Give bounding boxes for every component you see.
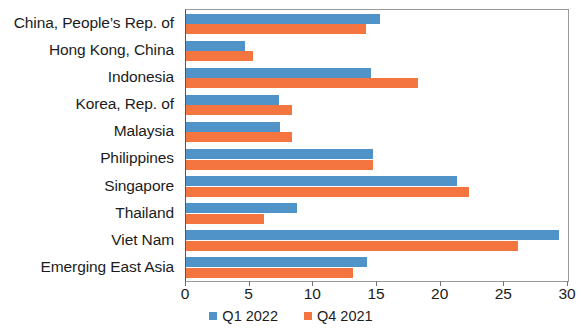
x-axis-tick-labels: 051015202530	[185, 285, 568, 307]
bar-group	[186, 146, 568, 173]
y-axis-label: China, People’s Rep. of	[0, 9, 180, 36]
legend-item[interactable]: Q4 2021	[304, 308, 373, 324]
bar-q1-2022[interactable]	[186, 68, 371, 78]
bar-q1-2022[interactable]	[186, 176, 457, 186]
bar-q4-2021[interactable]	[186, 78, 418, 88]
y-axis-label: Viet Nam	[0, 226, 180, 253]
bar-group	[186, 91, 568, 118]
bar-group	[186, 227, 568, 254]
y-axis-label: Philippines	[0, 144, 180, 171]
bar-group	[186, 10, 568, 37]
bar-q1-2022[interactable]	[186, 41, 245, 51]
x-axis-tick-label: 30	[558, 285, 575, 303]
bar-group	[186, 37, 568, 64]
legend-label: Q4 2021	[317, 308, 373, 324]
bar-q1-2022[interactable]	[186, 257, 367, 267]
legend-item[interactable]: Q1 2022	[209, 308, 278, 324]
bar-q1-2022[interactable]	[186, 149, 373, 159]
y-axis-label: Korea, Rep. of	[0, 90, 180, 117]
y-axis-label: Thailand	[0, 199, 180, 226]
x-axis-tick-label: 0	[181, 285, 190, 303]
bar-group	[186, 118, 568, 145]
bar-group	[186, 173, 568, 200]
y-axis-label: Emerging East Asia	[0, 253, 180, 280]
bar-group	[186, 200, 568, 227]
legend-label: Q1 2022	[222, 308, 278, 324]
bar-q4-2021[interactable]	[186, 132, 292, 142]
y-axis-label: Singapore	[0, 172, 180, 199]
bar-q4-2021[interactable]	[186, 214, 264, 224]
plot-inner	[186, 10, 568, 281]
y-axis-label: Hong Kong, China	[0, 36, 180, 63]
bar-q1-2022[interactable]	[186, 14, 380, 24]
bar-q4-2021[interactable]	[186, 105, 292, 115]
bar-chart: China, People’s Rep. ofHong Kong, ChinaI…	[0, 0, 582, 328]
x-axis-tick-label: 20	[431, 285, 448, 303]
bar-q1-2022[interactable]	[186, 230, 559, 240]
bar-q4-2021[interactable]	[186, 24, 366, 34]
x-axis-tick-label: 5	[244, 285, 253, 303]
bar-q4-2021[interactable]	[186, 51, 253, 61]
legend-swatch-icon	[304, 312, 312, 320]
legend-swatch-icon	[209, 312, 217, 320]
y-axis-label: Malaysia	[0, 117, 180, 144]
bar-q4-2021[interactable]	[186, 160, 373, 170]
bar-group	[186, 254, 568, 281]
bar-group	[186, 64, 568, 91]
y-axis-label: Indonesia	[0, 63, 180, 90]
x-axis-tick-label: 25	[495, 285, 512, 303]
bar-q4-2021[interactable]	[186, 241, 518, 251]
bar-q4-2021[interactable]	[186, 187, 469, 197]
plot-area	[185, 9, 569, 282]
chart-legend: Q1 2022Q4 2021	[0, 308, 582, 324]
bar-q4-2021[interactable]	[186, 268, 353, 278]
x-axis-tick-label: 10	[304, 285, 321, 303]
y-axis-category-labels: China, People’s Rep. ofHong Kong, ChinaI…	[0, 9, 180, 280]
bar-q1-2022[interactable]	[186, 122, 280, 132]
x-axis-tick-label: 15	[367, 285, 384, 303]
bar-q1-2022[interactable]	[186, 95, 279, 105]
bar-q1-2022[interactable]	[186, 203, 297, 213]
